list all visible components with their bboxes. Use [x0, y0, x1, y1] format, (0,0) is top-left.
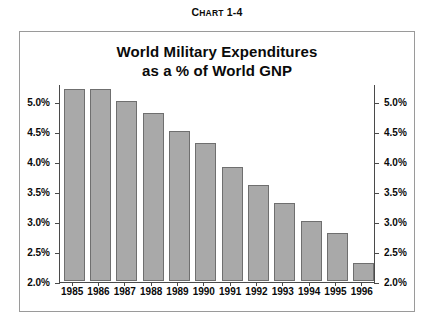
y-axis-label-left: 2.0% [10, 278, 50, 288]
bar-1985 [64, 89, 85, 281]
bar-series [61, 85, 373, 281]
x-axis-label-1985: 1985 [59, 286, 85, 298]
bar-1988 [143, 113, 164, 281]
y-axis-label-right: 3.5% [384, 188, 424, 198]
y-tick-left-2.0 [55, 283, 60, 284]
x-axis-label-1989: 1989 [164, 286, 190, 298]
y-tick-right-4.5 [374, 133, 379, 134]
y-tick-left-4.0 [55, 163, 60, 164]
bar-1990 [195, 143, 216, 281]
y-tick-left-3.0 [55, 223, 60, 224]
x-axis-label-1990: 1990 [191, 286, 217, 298]
chart-caption: CHART 1-4 [0, 6, 434, 18]
y-tick-right-2.5 [374, 253, 379, 254]
figure-title-line1: World Military Expenditures [117, 43, 318, 60]
y-axis-label-left: 2.5% [10, 248, 50, 258]
x-axis-label-1988: 1988 [138, 286, 164, 298]
bar-1996 [353, 263, 374, 281]
y-tick-right-3.0 [374, 223, 379, 224]
y-tick-right-5.0 [374, 103, 379, 104]
y-axis-label-left: 4.5% [10, 128, 50, 138]
chart-caption-smallcaps: HART [199, 8, 223, 18]
bar-1993 [274, 203, 295, 281]
y-axis-label-left: 3.5% [10, 188, 50, 198]
bar-1989 [169, 131, 190, 281]
chart-caption-number: 1-4 [224, 6, 243, 18]
figure-title-line2: as a % of World GNP [20, 61, 414, 80]
x-axis-label-1995: 1995 [322, 286, 348, 298]
bar-1992 [248, 185, 269, 281]
y-axis-label-right: 2.0% [384, 278, 424, 288]
x-axis-label-1993: 1993 [270, 286, 296, 298]
x-axis-label-1994: 1994 [296, 286, 322, 298]
figure-frame: World Military Expenditures as a % of Wo… [19, 31, 415, 312]
y-tick-right-4.0 [374, 163, 379, 164]
plot-area: 2.0%2.5%3.0%3.5%4.0%4.5%5.0% 2.0%2.5%3.0… [59, 85, 375, 283]
bar-1991 [222, 167, 243, 281]
x-axis-label-1987: 1987 [112, 286, 138, 298]
x-axis-label-1996: 1996 [349, 286, 375, 298]
bar-1986 [90, 89, 111, 281]
x-axis-label-1992: 1992 [243, 286, 269, 298]
y-axis-label-left: 3.0% [10, 218, 50, 228]
bar-1987 [116, 101, 137, 281]
y-axis-label-right: 2.5% [384, 248, 424, 258]
y-tick-right-3.5 [374, 193, 379, 194]
x-axis-labels: 1985198619871988198919901991199219931994… [59, 286, 375, 302]
bar-1994 [301, 221, 322, 281]
y-axis-label-right: 5.0% [384, 98, 424, 108]
x-axis-label-1986: 1986 [85, 286, 111, 298]
y-axis-label-right: 3.0% [384, 218, 424, 228]
y-axis-label-right: 4.0% [384, 158, 424, 168]
y-tick-right-2.0 [374, 283, 379, 284]
y-axis-label-right: 4.5% [384, 128, 424, 138]
y-tick-left-4.5 [55, 133, 60, 134]
y-tick-left-5.0 [55, 103, 60, 104]
y-tick-left-3.5 [55, 193, 60, 194]
y-tick-left-2.5 [55, 253, 60, 254]
figure-title: World Military Expenditures as a % of Wo… [20, 42, 414, 80]
x-axis-label-1991: 1991 [217, 286, 243, 298]
y-axis-label-left: 5.0% [10, 98, 50, 108]
y-axis-label-left: 4.0% [10, 158, 50, 168]
bar-1995 [327, 233, 348, 281]
